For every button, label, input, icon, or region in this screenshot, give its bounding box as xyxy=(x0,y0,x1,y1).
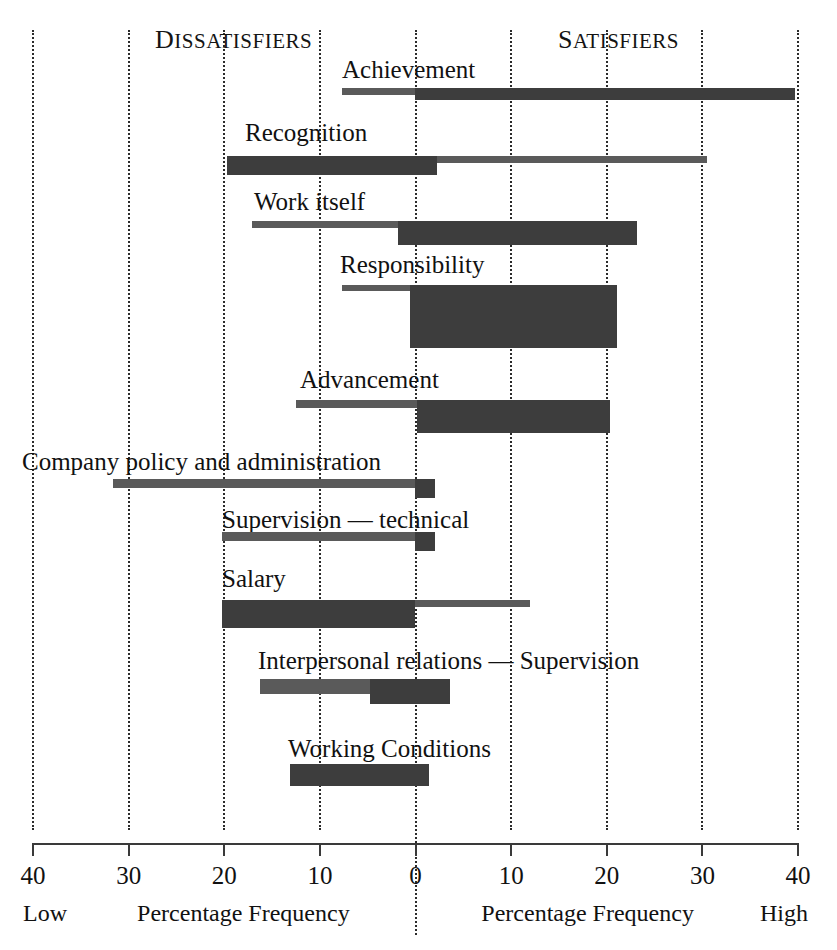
bar-segment-long-duration xyxy=(227,156,437,175)
gridline-neg10 xyxy=(319,30,321,830)
row-label: Advancement xyxy=(300,367,439,392)
axis-tick-label: 0 xyxy=(409,862,422,890)
bar-segment-long-duration xyxy=(398,221,637,245)
x-axis xyxy=(0,843,837,846)
bar-segment-long-duration xyxy=(410,285,617,348)
axis-tick-label: 20 xyxy=(212,862,237,890)
axis-tick xyxy=(797,843,799,856)
axis-tick-label: 20 xyxy=(594,862,619,890)
section-header-satisfiers: SATISFIERS xyxy=(558,25,679,55)
axis-tick xyxy=(701,843,703,856)
gridline-neg40 xyxy=(32,30,34,830)
row-label: Recognition xyxy=(245,120,367,145)
bar-segment-total xyxy=(113,479,435,488)
gridline-neg20 xyxy=(223,30,225,830)
row-label: Company policy and administration xyxy=(22,449,381,474)
herzberg-motivation-hygiene-chart: DISSATISFIERS SATISFIERS AchievementReco… xyxy=(0,0,837,950)
axis-tick xyxy=(606,843,608,856)
axis-tick-label: 40 xyxy=(786,862,811,890)
row-label: Working Conditions xyxy=(288,736,491,761)
row-label: Work itself xyxy=(254,189,365,214)
bar-segment-long-duration xyxy=(222,600,415,628)
row-label: Achievement xyxy=(342,57,475,82)
axis-tick xyxy=(510,843,512,856)
gridline-pos30 xyxy=(701,30,703,830)
axis-footer-left: Percentage Frequency xyxy=(137,900,350,927)
gridline-pos40 xyxy=(797,30,799,830)
axis-tick xyxy=(128,843,130,856)
axis-tick-label: 30 xyxy=(690,862,715,890)
gridline-neg30 xyxy=(128,30,130,830)
axis-tick xyxy=(415,843,417,856)
axis-tick xyxy=(32,843,34,856)
bar-segment-long-duration xyxy=(417,400,610,433)
axis-tick xyxy=(319,843,321,856)
axis-tick-label: 30 xyxy=(116,862,141,890)
bar-segment-long-duration xyxy=(415,532,435,551)
bar-segment-long-duration xyxy=(415,88,795,100)
axis-tick xyxy=(223,843,225,856)
bar-segment-total xyxy=(222,532,435,541)
row-label: Salary xyxy=(222,566,286,591)
axis-footer-high: High xyxy=(760,900,808,927)
row-label: Supervision — technical xyxy=(222,507,469,532)
row-label: Interpersonal relations — Supervision xyxy=(258,648,639,673)
axis-tick-label: 10 xyxy=(499,862,524,890)
axis-footer-right: Percentage Frequency xyxy=(481,900,694,927)
axis-tick-label: 40 xyxy=(21,862,46,890)
bar-segment-long-duration xyxy=(415,479,435,498)
axis-footer-low: Low xyxy=(23,900,67,927)
section-header-dissatisfiers: DISSATISFIERS xyxy=(155,25,312,55)
bar-segment-long-duration xyxy=(290,764,429,786)
row-label: Responsibility xyxy=(340,252,484,277)
bar-segment-long-duration xyxy=(370,679,450,704)
axis-tick-label: 10 xyxy=(307,862,332,890)
